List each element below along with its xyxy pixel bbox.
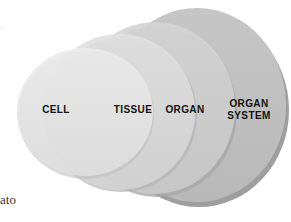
organ-label: ORGAN (160, 104, 210, 116)
organ-system-label-line2: SYSTEM (218, 110, 280, 122)
levels-of-organization-diagram: · ato (0, 0, 291, 222)
organ-system-label-line1: ORGAN (218, 98, 280, 110)
tissue-label: TISSUE (108, 104, 158, 116)
cell-label: CELL (36, 104, 76, 116)
organ-system-label: ORGAN SYSTEM (218, 98, 280, 122)
